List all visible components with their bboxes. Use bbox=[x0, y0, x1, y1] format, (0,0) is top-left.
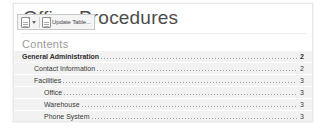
chevron-down-icon[interactable] bbox=[32, 21, 36, 24]
document-page: Office Procedures Contents General Admin… bbox=[13, 3, 313, 122]
toc-entry[interactable]: Warehouse 3 bbox=[14, 99, 312, 110]
toc-field-toolbar[interactable]: Update Table... bbox=[17, 14, 95, 30]
contents-heading: Contents bbox=[22, 38, 68, 51]
document-icon bbox=[21, 17, 30, 28]
toolbar-separator bbox=[39, 17, 40, 28]
toc-page-number: 3 bbox=[299, 113, 304, 121]
toc-entry[interactable]: Contact Information 2 bbox=[14, 63, 312, 74]
toc-entry-label: Warehouse bbox=[44, 101, 80, 109]
toc-entry[interactable]: General Administration 2 bbox=[14, 51, 312, 62]
toc-entry[interactable]: Office 3 bbox=[14, 87, 312, 98]
table-icon bbox=[42, 17, 51, 28]
toc-page-number: 3 bbox=[299, 77, 304, 85]
update-table-label: Update Table... bbox=[52, 19, 91, 26]
toc-entry-label: General Administration bbox=[22, 53, 99, 61]
toc-page-number: 3 bbox=[299, 89, 304, 97]
toc-leader-dots bbox=[64, 89, 297, 96]
toc-entry[interactable]: Phone System 3 bbox=[14, 111, 312, 122]
toc-leader-dots bbox=[101, 53, 297, 60]
toc-style-button[interactable] bbox=[20, 16, 38, 29]
toc-page-number: 3 bbox=[299, 101, 304, 109]
toc-entry[interactable]: Facilities 3 bbox=[14, 75, 312, 86]
toc-leader-dots bbox=[92, 113, 297, 120]
title-underline bbox=[21, 33, 306, 34]
toc-page-number: 2 bbox=[299, 65, 304, 73]
toc-page-number: 2 bbox=[299, 53, 304, 61]
update-table-button[interactable]: Update Table... bbox=[41, 16, 92, 29]
toc-leader-dots bbox=[63, 77, 297, 84]
toc-entry-label: Phone System bbox=[44, 113, 90, 121]
word-document-view: Office Procedures Contents General Admin… bbox=[0, 0, 333, 132]
toc-leader-dots bbox=[97, 65, 297, 72]
table-of-contents: General Administration 2 Contact Informa… bbox=[14, 51, 312, 122]
toc-leader-dots bbox=[82, 101, 297, 108]
toc-entry-label: Contact Information bbox=[34, 65, 95, 73]
toc-entry-label: Facilities bbox=[34, 77, 61, 85]
toc-entry-label: Office bbox=[44, 89, 62, 97]
